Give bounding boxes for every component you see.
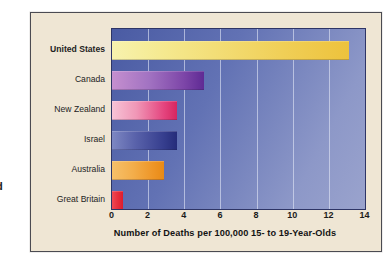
bar-australia <box>112 161 164 180</box>
category-label-united-states: United States <box>31 45 105 54</box>
bar-united-states <box>112 41 349 60</box>
bar-canada <box>112 71 204 90</box>
category-label-new-zealand: New Zealand <box>31 105 105 114</box>
bar-israel <box>112 131 177 150</box>
x-tick-4: 4 <box>181 211 186 220</box>
category-label-great-britain: Great Britain <box>31 195 105 204</box>
x-tick-14: 14 <box>359 211 369 220</box>
bar-new-zealand <box>112 101 177 120</box>
cropped-edge-text: d <box>0 180 10 192</box>
category-label-israel: Israel <box>31 135 105 144</box>
x-tick-0: 0 <box>109 211 114 220</box>
x-tick-12: 12 <box>323 211 333 220</box>
bar-great-britain <box>112 191 123 210</box>
x-axis-title: Number of Deaths per 100,000 15- to 19-Y… <box>79 228 371 238</box>
x-tick-6: 6 <box>217 211 222 220</box>
category-label-canada: Canada <box>31 75 105 84</box>
x-tick-8: 8 <box>254 211 259 220</box>
x-tick-2: 2 <box>145 211 150 220</box>
category-label-australia: Australia <box>31 165 105 174</box>
plot-area <box>111 28 366 210</box>
figure-panel: United States Canada New Zealand Israel … <box>30 12 382 252</box>
x-tick-10: 10 <box>287 211 297 220</box>
